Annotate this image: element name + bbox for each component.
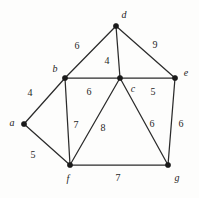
graph-canvas: [0, 0, 199, 198]
edge-weight-c-f: 8: [101, 123, 106, 133]
graph-vertex-e: [172, 75, 177, 80]
edge-weight-f-g: 7: [116, 173, 121, 183]
edge-weight-a-f: 5: [31, 150, 36, 160]
edge-weight-a-b: 4: [28, 88, 33, 98]
edge-weight-b-f: 7: [74, 120, 79, 130]
edge-weight-d-e: 9: [153, 40, 158, 50]
edge-weight-e-g: 6: [179, 119, 184, 129]
vertex-label-c: c: [131, 84, 135, 94]
graph-edge-d-e: [116, 26, 175, 78]
graph-vertex-f: [67, 162, 72, 167]
graph-edge-b-d: [65, 26, 116, 78]
graph-vertex-b: [62, 75, 67, 80]
vertex-label-e: e: [184, 68, 188, 78]
graph-edge-c-g: [120, 78, 168, 165]
graph-edge-b-f: [65, 78, 70, 165]
edge-weight-c-g: 6: [150, 119, 155, 129]
edge-weight-c-e: 5: [151, 87, 156, 97]
graph-vertex-c: [117, 75, 122, 80]
graph-edge-d-c: [116, 26, 120, 78]
vertex-label-b: b: [53, 64, 58, 74]
graph-edge-e-g: [168, 78, 175, 165]
vertex-label-a: a: [10, 118, 15, 128]
graph-vertex-a: [21, 121, 26, 126]
vertex-label-d: d: [122, 10, 127, 20]
weighted-graph-figure: 456674958667abcdefg: [0, 0, 199, 198]
edge-weight-b-d: 6: [75, 41, 80, 51]
graph-vertex-g: [165, 162, 170, 167]
edge-weight-b-c: 6: [87, 87, 92, 97]
vertex-label-g: g: [175, 173, 180, 183]
edge-weight-d-c: 4: [105, 56, 110, 66]
graph-edge-a-b: [24, 78, 65, 124]
graph-vertex-d: [113, 23, 118, 28]
vertex-label-f: f: [67, 174, 70, 184]
